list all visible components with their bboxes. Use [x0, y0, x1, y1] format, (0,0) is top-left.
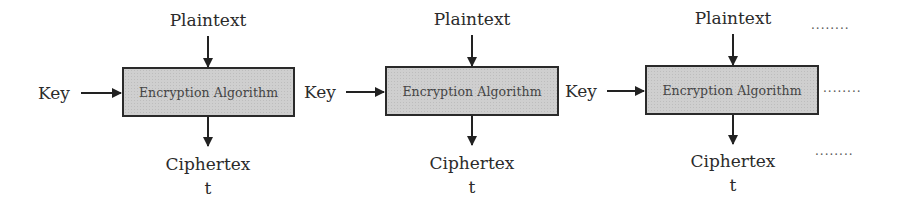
ciphertext-label-1: Ciphertex: [153, 154, 263, 174]
ciphertext-label-2-cont: t: [417, 177, 527, 197]
key-label-1: Key: [38, 83, 70, 103]
continuation-dots-middle: ........: [823, 83, 862, 93]
key-label-3: Key: [565, 81, 597, 101]
encryption-algorithm-box-1: Encryption Algorithm: [122, 67, 295, 117]
ciphertext-label-2: Ciphertex: [417, 153, 527, 173]
encryption-algorithm-box-3: Encryption Algorithm: [645, 65, 819, 115]
ciphertext-label-1-cont: t: [153, 178, 263, 198]
continuation-dots-top: ........: [811, 20, 850, 30]
continuation-dots-bottom: ........: [815, 146, 854, 156]
plaintext-label-1: Plaintext: [158, 10, 258, 30]
ciphertext-label-3: Ciphertex: [678, 151, 788, 171]
plaintext-label-2: Plaintext: [422, 9, 522, 29]
encryption-algorithm-label-2: Encryption Algorithm: [402, 84, 541, 99]
encryption-algorithm-label-3: Encryption Algorithm: [662, 83, 801, 98]
key-label-2: Key: [304, 82, 336, 102]
encryption-algorithm-label-1: Encryption Algorithm: [139, 85, 278, 100]
plaintext-label-3: Plaintext: [683, 8, 783, 28]
encryption-algorithm-box-2: Encryption Algorithm: [385, 66, 559, 116]
ciphertext-label-3-cont: t: [678, 175, 788, 195]
